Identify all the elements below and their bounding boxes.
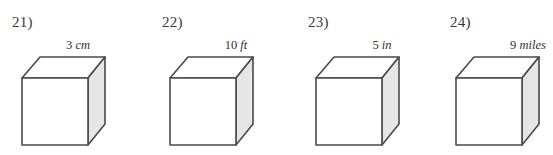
edge-length-label-24: 9 miles	[458, 38, 553, 53]
cube-front-face	[22, 78, 88, 145]
problem-number-24: 24)	[450, 14, 471, 31]
problem-23: 23) 5 in	[292, 0, 432, 155]
cube-front-face	[170, 78, 236, 145]
problem-number-21: 21)	[12, 14, 33, 31]
cube-drawing-24	[446, 52, 546, 152]
edge-length-label-23: 5 in	[312, 38, 452, 53]
problem-22: 22) 10 ft	[146, 0, 286, 155]
cube-front-face	[456, 78, 522, 145]
edge-unit-22: ft	[240, 38, 247, 52]
edge-unit-23: in	[382, 38, 392, 52]
problem-21: 21) 3 cm	[0, 0, 140, 155]
problem-number-22: 22)	[162, 14, 183, 31]
cube-figure-23	[306, 52, 446, 152]
cube-drawing-21	[12, 52, 112, 152]
worksheet-canvas: 21) 3 cm 22) 10 ft 23) 5 in	[0, 0, 553, 155]
edge-length-label-22: 10 ft	[166, 38, 306, 53]
edge-unit-24: miles	[519, 38, 545, 52]
cube-drawing-22	[160, 52, 260, 152]
edge-unit-21: cm	[75, 38, 90, 52]
problem-24: 24) 9 miles	[432, 0, 553, 155]
cube-figure-21	[12, 52, 152, 152]
cube-figure-22	[160, 52, 300, 152]
cube-drawing-23	[306, 52, 406, 152]
problem-number-23: 23)	[308, 14, 329, 31]
edge-value-22: 10	[225, 38, 238, 52]
cube-figure-24	[446, 52, 553, 152]
cube-front-face	[316, 78, 382, 145]
edge-length-label-21: 3 cm	[8, 38, 148, 53]
